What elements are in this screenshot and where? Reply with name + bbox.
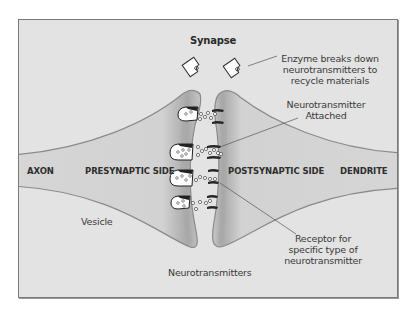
receptor-callout-line-3: neurotransmitter <box>282 255 364 266</box>
dendrite-label: DENDRITE <box>340 166 388 177</box>
vesicle-icon <box>178 107 198 121</box>
vesicle-icon <box>170 144 193 160</box>
vesicle-icon <box>171 196 190 209</box>
enzyme-callout-line-2: neurotransmitters to <box>274 64 386 75</box>
vesicle-label: Vesicle <box>81 216 113 227</box>
attached-callout: Neurotransmitter Attached <box>281 99 371 121</box>
diagram-title: Synapse <box>190 35 236 46</box>
receptor-callout-line-1: Receptor for <box>282 233 364 244</box>
axon-label: AXON <box>27 166 54 177</box>
receptor-callout: Receptor for specific type of neurotrans… <box>282 233 364 266</box>
enzyme-callout-line-3: recycle materials <box>274 75 386 86</box>
enzyme-callout-line <box>248 56 277 66</box>
presynaptic-label: PRESYNAPTIC SIDE <box>85 166 175 177</box>
enzyme-callout: Enzyme breaks down neurotransmitters to … <box>274 53 386 86</box>
enzyme-callout-line-1: Enzyme breaks down <box>274 53 386 64</box>
neurotransmitters-label: Neurotransmitters <box>168 267 252 278</box>
attached-callout-line-2: Attached <box>281 110 371 121</box>
enzyme-icon <box>182 57 201 76</box>
attached-callout-line-1: Neurotransmitter <box>281 99 371 110</box>
enzyme-icon <box>223 58 242 77</box>
postsynaptic-label: POSTSYNAPTIC SIDE <box>228 166 324 177</box>
receptor-callout-line-2: specific type of <box>282 244 364 255</box>
